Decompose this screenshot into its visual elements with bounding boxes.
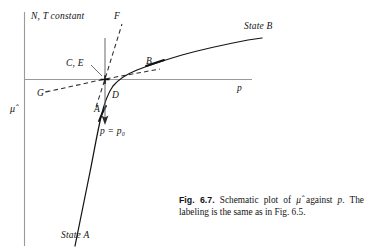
pressure-marker-label: p = p₀	[100, 127, 125, 137]
figure-page: through crossing ---> toward B --> N, T …	[0, 0, 369, 248]
caption-text-1: Schematic plot of	[220, 195, 296, 205]
caption-figure-number: Fig. 6.7.	[179, 195, 215, 205]
point-a-label: A	[94, 105, 100, 115]
state-a-label: State A	[61, 231, 89, 241]
x-axis-label: p	[237, 84, 242, 94]
crossing-point-marker	[101, 75, 110, 84]
ce-leader-line	[91, 65, 102, 76]
point-d-label: D	[112, 91, 119, 101]
point-f-label: F	[114, 12, 120, 22]
point-g-label: G	[37, 89, 44, 99]
condition-note-label: N, T constant	[31, 12, 84, 22]
caption-text-2: against	[301, 195, 338, 205]
y-axis-label: μ̂	[10, 104, 15, 114]
points-ce-label: C, E	[66, 59, 84, 69]
state-b-label: State B	[244, 22, 273, 32]
figure-caption: Fig. 6.7. Schematic plot of μ̂ against p…	[179, 194, 364, 219]
dashed-line-g-b	[46, 69, 160, 92]
point-b-label: B	[146, 57, 152, 67]
